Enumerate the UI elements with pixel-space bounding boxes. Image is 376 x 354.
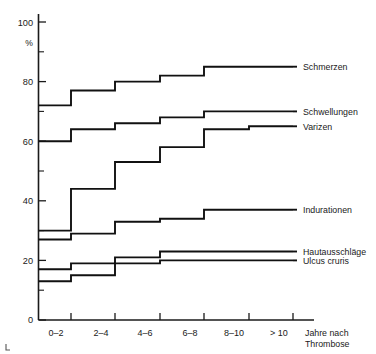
series-label-schmerzen: Schmerzen	[303, 62, 348, 72]
y-minor-ticks	[39, 52, 45, 290]
curve-indurationen	[39, 210, 294, 240]
chart-container: 100 % 80 60 40 20 0 0–2 2–4 4–6 6–8 8–10…	[0, 0, 376, 354]
x-axis-label-2-4: 2–4	[93, 328, 108, 338]
y-axis-label-80: 80	[23, 77, 33, 87]
series-curves	[39, 67, 294, 282]
step-chart-plot: 100 % 80 60 40 20 0 0–2 2–4 4–6 6–8 8–10…	[0, 0, 376, 354]
x-axis-label-4-6: 4–6	[137, 328, 152, 338]
series-labels-group: Schmerzen Schwellungen Varizen Induratio…	[303, 62, 366, 266]
y-axis-label-20: 20	[23, 256, 33, 266]
x-axis-caption-line1: Jahre nach	[305, 328, 349, 338]
x-axis-label-8-10: 8–10	[224, 328, 244, 338]
y-axis-labels: 100 % 80 60 40 20 0	[18, 18, 34, 326]
y-axis-label-0: 0	[28, 315, 33, 325]
series-label-ulcus-cruris: Ulcus cruris	[303, 256, 350, 266]
x-axis-label-0-2: 0–2	[48, 328, 63, 338]
y-axis-label-40: 40	[23, 196, 33, 206]
series-label-schwellungen: Schwellungen	[303, 107, 358, 117]
curve-varizen	[39, 126, 294, 230]
legend-leader-lines	[293, 67, 297, 261]
figure-corner-mark	[6, 344, 10, 350]
curve-schmerzen	[39, 67, 294, 106]
y-axis-label-100: 100	[18, 18, 33, 28]
x-ticks	[71, 313, 293, 320]
axes-group	[39, 14, 315, 320]
x-axis-caption-line2: Thrombose	[305, 339, 350, 349]
y-axis-unit-label: %	[25, 38, 33, 48]
x-axis-label-6-8: 6–8	[182, 328, 197, 338]
series-label-varizen: Varizen	[303, 122, 332, 132]
y-axis-label-60: 60	[23, 137, 33, 147]
x-axis-label-gt-10: > 10	[270, 328, 288, 338]
series-label-indurationen: Indurationen	[303, 205, 352, 215]
x-axis-labels: 0–2 2–4 4–6 6–8 8–10 > 10 Jahre nach Thr…	[48, 328, 349, 349]
